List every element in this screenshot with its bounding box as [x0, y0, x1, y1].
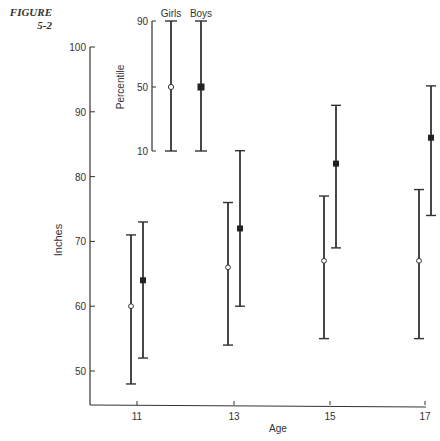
median-marker-circle-icon: [129, 304, 134, 309]
error-bar-boys-age-13: [235, 151, 245, 307]
legend: 905010PercentileGirlsBoys: [115, 8, 212, 157]
error-bar-girls-age-11: [126, 235, 136, 384]
median-marker-circle-icon: [417, 258, 422, 263]
error-bar-girls-age-15: [319, 196, 329, 339]
error-bar-girls-age-17: [414, 190, 424, 339]
median-marker-circle-icon: [226, 265, 231, 270]
legend-entry-boys: Boys: [190, 8, 212, 151]
median-marker-square-icon: [428, 135, 434, 141]
median-marker-square-icon: [237, 225, 243, 231]
error-bar-girls-age-13: [223, 203, 233, 346]
median-marker-square-icon: [333, 161, 339, 167]
x-tick-label: 11: [132, 411, 143, 422]
x-axis-line: [90, 405, 426, 407]
legend-entry-label: Girls: [161, 8, 182, 19]
median-marker-square-icon: [140, 277, 146, 283]
x-tick-label: 13: [228, 411, 240, 422]
legend-tick-label: 90: [137, 16, 149, 27]
legend-tick-label: 50: [137, 82, 149, 93]
error-bar-boys-age-11: [138, 222, 148, 358]
y-axis-label: Inches: [52, 223, 64, 256]
error-bar-chart: 506070809010011131517 905010PercentileGi…: [0, 0, 440, 441]
error-bar-boys-age-15: [331, 105, 341, 248]
x-tick-label: 17: [419, 411, 431, 422]
data-series: [126, 86, 436, 384]
legend-circle-icon: [168, 84, 173, 89]
x-tick-label: 15: [324, 411, 336, 422]
legend-axis-label: Percentile: [115, 64, 126, 109]
y-tick-label: 90: [75, 107, 87, 118]
y-tick-label: 80: [75, 172, 87, 183]
legend-tick-label: 10: [137, 146, 149, 157]
y-tick-label: 100: [69, 42, 86, 53]
legend-entry-girls: Girls: [161, 8, 182, 151]
y-tick-label: 50: [75, 366, 87, 377]
x-axis-label: Age: [269, 423, 287, 434]
median-marker-circle-icon: [322, 258, 327, 263]
y-tick-label: 60: [75, 301, 87, 312]
legend-entry-label: Boys: [190, 8, 212, 19]
error-bar-boys-age-17: [426, 86, 436, 216]
legend-square-icon: [198, 84, 205, 91]
y-tick-label: 70: [75, 236, 87, 247]
